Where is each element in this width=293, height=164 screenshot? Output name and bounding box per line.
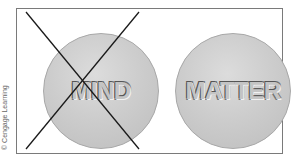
cross-out-icon — [0, 0, 293, 164]
copyright-credit: © Cengage Learning — [1, 85, 8, 150]
